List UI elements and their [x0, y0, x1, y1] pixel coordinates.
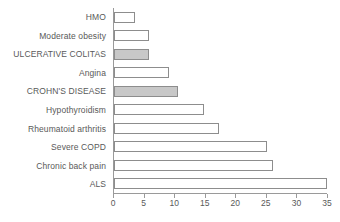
category-label: Rheumatoid arthritis	[0, 120, 110, 139]
category-label: Moderate obesity	[0, 27, 110, 46]
bar-slot	[114, 101, 327, 120]
x-tick-label: 35	[322, 199, 331, 208]
bar-slot	[114, 45, 327, 64]
plot-area	[113, 8, 327, 194]
category-label: CROHN'S DISEASE	[0, 82, 110, 101]
category-label: Severe COPD	[0, 138, 110, 157]
bar-angina	[114, 67, 169, 78]
bar-moderate-obesity	[114, 30, 149, 41]
x-tick-label: 10	[169, 199, 178, 208]
x-tick-label: 25	[261, 199, 270, 208]
bar-slot	[114, 64, 327, 83]
bar-slot	[114, 156, 327, 175]
x-tick-label: 5	[141, 199, 146, 208]
bar-chronic-back-pain	[114, 160, 273, 171]
bar-als	[114, 178, 327, 189]
category-label: HMO	[0, 8, 110, 27]
bar-slot	[114, 8, 327, 27]
category-label: ULCERATIVE COLITAS	[0, 45, 110, 64]
x-tick-label: 0	[111, 199, 116, 208]
bar-severe-copd	[114, 141, 267, 152]
x-axis: 05101520253035	[113, 194, 327, 220]
bar-series	[114, 8, 327, 193]
bar-crohn-s-disease	[114, 86, 178, 97]
x-tick-label: 20	[231, 199, 240, 208]
bar-hmo	[114, 12, 135, 23]
category-axis-labels: HMO Moderate obesity ULCERATIVE COLITAS …	[0, 8, 110, 194]
bar-slot	[114, 119, 327, 138]
x-tick-label: 30	[292, 199, 301, 208]
bar-slot	[114, 27, 327, 46]
bar-chart: HMO Moderate obesity ULCERATIVE COLITAS …	[0, 0, 340, 222]
bar-slot	[114, 175, 327, 194]
category-label: Chronic back pain	[0, 157, 110, 176]
bar-slot	[114, 138, 327, 157]
bar-ulcerative-colitas	[114, 49, 149, 60]
category-label: Angina	[0, 64, 110, 83]
category-label: ALS	[0, 175, 110, 194]
bar-hypothyroidism	[114, 104, 204, 115]
category-label: Hypothyroidism	[0, 101, 110, 120]
bar-slot	[114, 82, 327, 101]
bar-rheumatoid-arthritis	[114, 123, 219, 134]
x-tick-label: 15	[200, 199, 209, 208]
